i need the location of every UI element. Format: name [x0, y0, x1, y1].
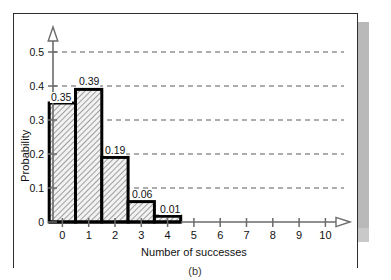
- x-tick-label-4: 4: [158, 230, 178, 241]
- y-tick-label-4: 0.4: [18, 81, 44, 92]
- x-tick-label-3: 3: [131, 230, 151, 241]
- x-tick-label-5: 5: [184, 230, 204, 241]
- figure-root: 0 0.1 0.2 0.3 0.4 0.5 0 1 2 3 4 5 6 7 8 …: [0, 0, 391, 280]
- bar-value-label-1: 0.39: [78, 76, 100, 87]
- x-tick-label-7: 7: [237, 230, 257, 241]
- y-axis-title: Probability: [20, 130, 31, 182]
- figure-drop-shadow: [358, 22, 369, 240]
- x-tick-label-0: 0: [52, 230, 72, 241]
- y-tick-label-3: 0.3: [18, 115, 44, 126]
- y-tick-label-5: 0.5: [18, 47, 44, 58]
- figure-caption: (b): [165, 265, 225, 277]
- bar-value-label-3: 0.06: [131, 189, 153, 200]
- bar-value-label-2: 0.19: [104, 145, 126, 156]
- x-tick-label-10: 10: [315, 230, 335, 241]
- figure-drop-shadow-lower: [358, 228, 369, 242]
- x-tick-label-6: 6: [210, 230, 230, 241]
- y-tick-label-1: 0.1: [18, 183, 44, 194]
- y-tick-label-0: 0: [18, 217, 44, 228]
- bar-value-label-4: 0.01: [159, 204, 181, 215]
- x-tick-label-1: 1: [79, 230, 99, 241]
- x-axis-title: Number of successes: [94, 247, 294, 258]
- x-tick-label-9: 9: [289, 230, 309, 241]
- bar-value-label-0: 0.35: [50, 92, 72, 103]
- x-tick-label-2: 2: [105, 230, 125, 241]
- x-tick-label-8: 8: [263, 230, 283, 241]
